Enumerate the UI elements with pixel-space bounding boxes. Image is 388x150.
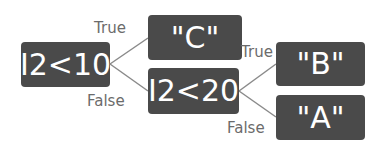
edge-mid-true xyxy=(239,64,276,91)
node-mid-label: I2<20 xyxy=(148,76,239,106)
node-root-label: I2<10 xyxy=(20,50,111,80)
edge-label-root-true: True xyxy=(94,19,126,37)
edge-root-false xyxy=(110,64,148,91)
edge-root-true xyxy=(110,38,148,64)
node-c: "C" xyxy=(148,15,242,60)
node-a: "A" xyxy=(276,95,365,140)
node-b-label: "B" xyxy=(296,49,344,79)
node-c-label: "C" xyxy=(171,23,220,53)
edge-label-root-false: False xyxy=(87,92,125,110)
edge-label-mid-true: True xyxy=(241,43,273,61)
node-b: "B" xyxy=(276,42,365,86)
edge-label-mid-false: False xyxy=(227,119,265,137)
edge-mid-false xyxy=(239,91,276,117)
node-a-label: "A" xyxy=(296,103,344,133)
node-root: I2<10 xyxy=(21,42,110,87)
node-mid: I2<20 xyxy=(148,68,239,114)
